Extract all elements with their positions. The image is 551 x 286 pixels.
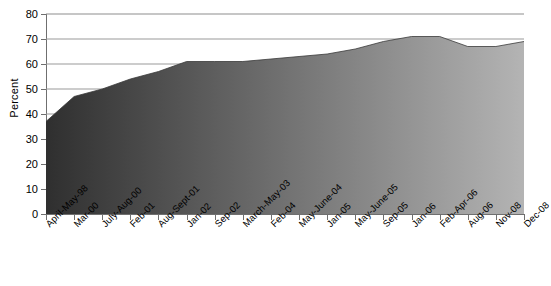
x-axis-tick-mark <box>440 215 441 220</box>
x-axis-tick-mark <box>327 215 328 220</box>
x-axis-tick-mark <box>46 215 47 220</box>
x-axis-tick-label: Dec-08 <box>522 200 551 229</box>
x-axis-tick-mark <box>74 215 75 220</box>
y-axis-tick-mark <box>41 39 46 40</box>
y-axis-tick-label: 60 <box>26 59 38 70</box>
x-axis-tick-mark <box>187 215 188 220</box>
x-axis-tick-mark <box>383 215 384 220</box>
x-axis-tick-mark <box>271 215 272 220</box>
x-axis-tick-mark <box>243 215 244 220</box>
y-axis-tick-label: 30 <box>26 134 38 145</box>
y-axis-tick-label: 80 <box>26 9 38 20</box>
y-axis-tick-label: 0 <box>32 209 38 220</box>
y-axis-tick-label: 50 <box>26 84 38 95</box>
x-axis-tick-mark <box>299 215 300 220</box>
y-axis-tick-mark <box>41 114 46 115</box>
x-axis-tick-mark <box>412 215 413 220</box>
x-axis-tick-mark <box>524 215 525 220</box>
y-axis-tick-labels: 01020304050607080 <box>0 0 46 286</box>
y-axis-tick-label: 10 <box>26 184 38 195</box>
y-axis-tick-mark <box>41 89 46 90</box>
x-axis-tick-mark <box>158 215 159 220</box>
x-axis-tick-mark <box>102 215 103 220</box>
x-axis-tick-mark <box>468 215 469 220</box>
y-axis-tick-label: 70 <box>26 34 38 45</box>
y-axis-tick-mark <box>41 189 46 190</box>
y-axis-tick-mark <box>41 139 46 140</box>
y-axis-tick-label: 20 <box>26 159 38 170</box>
y-axis-tick-mark <box>41 164 46 165</box>
x-axis-tick-mark <box>215 215 216 220</box>
y-axis-tick-mark <box>41 64 46 65</box>
y-axis-tick-mark <box>41 14 46 15</box>
x-axis-tick-mark <box>355 215 356 220</box>
x-axis-tick-mark <box>130 215 131 220</box>
x-axis-tick-mark <box>496 215 497 220</box>
y-axis-tick-label: 40 <box>26 109 38 120</box>
